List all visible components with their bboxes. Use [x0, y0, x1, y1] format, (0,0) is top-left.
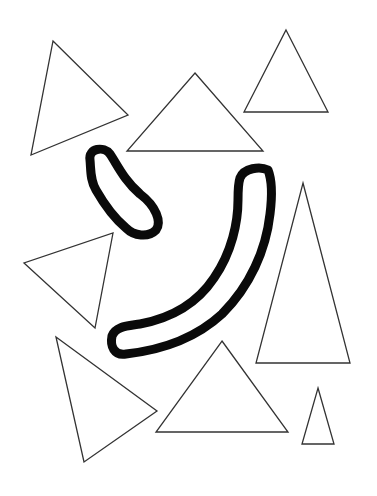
drawing-canvas	[0, 0, 377, 496]
